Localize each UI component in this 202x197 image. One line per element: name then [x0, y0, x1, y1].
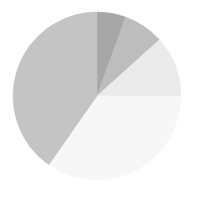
pie-chart-container: [0, 0, 202, 197]
pie-slice-group: [13, 12, 181, 180]
pie-chart-svg: [0, 0, 202, 197]
